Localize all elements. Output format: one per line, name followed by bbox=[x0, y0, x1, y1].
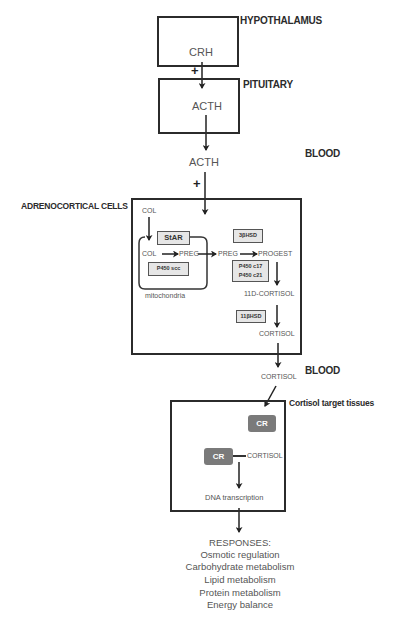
pituitary-label: PITUITARY bbox=[243, 79, 293, 90]
dna-transcription-label: DNA transcription bbox=[205, 493, 263, 502]
hypothalamus-box bbox=[157, 16, 239, 67]
acth-blood-label: ACTH bbox=[189, 156, 219, 168]
cortisol-blood-label: CORTISOL bbox=[261, 373, 297, 380]
enzyme-p450c21: P450 c21 bbox=[233, 271, 268, 280]
cortisol-receptor-free: CR bbox=[248, 415, 276, 432]
response-item: Osmotic regulation bbox=[140, 549, 340, 562]
col-inside-label: COL bbox=[142, 250, 156, 257]
enzyme-p450c17: P450 c17 bbox=[233, 262, 268, 271]
enzyme-star: StAR bbox=[157, 231, 190, 245]
response-item: Lipid metabolism bbox=[140, 574, 340, 587]
enzyme-p450scc: P450 scc bbox=[148, 262, 189, 276]
enzyme-p450c17-c21: P450 c17 P450 c21 bbox=[232, 260, 269, 282]
target-tissues-label: Cortisol target tissues bbox=[289, 398, 374, 408]
stimulation-mark-acth: + bbox=[193, 176, 201, 191]
col-outside-label: COL bbox=[142, 207, 156, 214]
acth-pituitary-label: ACTH bbox=[192, 100, 222, 112]
crh-label: CRH bbox=[189, 46, 213, 58]
enzyme-3bhsd: 3βHSD bbox=[233, 229, 263, 243]
enzyme-11bhsd: 11βHSD bbox=[236, 310, 266, 323]
response-item: Energy balance bbox=[140, 599, 340, 612]
hypothalamus-label: HYPOTHALAMUS bbox=[240, 15, 322, 26]
cortisol-receptor-bound: CR bbox=[204, 448, 233, 465]
preg-cyto-label: PREG bbox=[218, 250, 238, 257]
progest-label: PROGEST bbox=[258, 250, 292, 257]
adrenocortical-label: ADRENOCORTICAL CELLS bbox=[21, 201, 128, 211]
mitochondria-label: mitochondria bbox=[145, 292, 185, 299]
response-item: Carbohydrate metabolism bbox=[140, 561, 340, 574]
cortisol-cell-label: CORTISOL bbox=[259, 330, 295, 337]
11d-cortisol-label: 11D-CORTISOL bbox=[244, 290, 294, 297]
response-item: Protein metabolism bbox=[140, 587, 340, 600]
responses-header: RESPONSES: bbox=[140, 537, 340, 550]
cortisol-target-label: CORTISOL bbox=[247, 452, 283, 459]
blood-label-2: BLOOD bbox=[305, 365, 340, 376]
stimulation-mark-crh: + bbox=[191, 63, 199, 78]
preg-mito-label: PREG bbox=[179, 250, 199, 257]
blood-label-1: BLOOD bbox=[305, 148, 340, 159]
